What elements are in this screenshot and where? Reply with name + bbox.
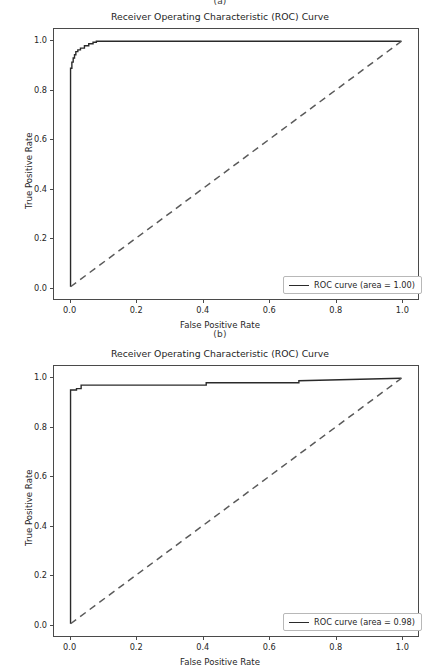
x-tick-label-b-5: 1.0 — [396, 642, 409, 652]
x-tick-a-0 — [70, 300, 71, 303]
x-tick-label-a-4: 0.8 — [329, 305, 342, 315]
y-tick-b-2 — [50, 526, 53, 527]
roc-plot-svg-a — [54, 29, 418, 299]
x-tick-a-3 — [269, 300, 270, 303]
y-tick-a-4 — [50, 90, 53, 91]
x-tick-label-a-5: 1.0 — [396, 305, 409, 315]
x-tick-label-a-0: 0.0 — [63, 305, 76, 315]
y-tick-label-b-5: 1.0 — [21, 372, 47, 382]
x-tick-label-b-4: 0.8 — [329, 642, 342, 652]
y-tick-label-a-1: 0.2 — [21, 233, 47, 243]
y-tick-b-1 — [50, 575, 53, 576]
y-tick-label-a-3: 0.6 — [21, 134, 47, 144]
roc-chart-panel-a: Receiver Operating Characteristic (ROC) … — [0, 0, 440, 340]
y-tick-label-b-1: 0.2 — [21, 570, 47, 580]
chart-title-a: Receiver Operating Characteristic (ROC) … — [0, 11, 440, 22]
plot-axes-b — [53, 365, 419, 637]
legend-line-swatch-b — [289, 622, 309, 623]
x-tick-a-5 — [402, 300, 403, 303]
x-tick-label-a-3: 0.6 — [263, 305, 276, 315]
y-tick-b-3 — [50, 476, 53, 477]
x-tick-label-a-2: 0.4 — [196, 305, 209, 315]
x-tick-b-3 — [269, 637, 270, 640]
chance-diagonal-line-b — [71, 378, 402, 623]
y-tick-label-b-0: 0.0 — [21, 620, 47, 630]
y-tick-label-a-0: 0.0 — [21, 283, 47, 293]
chance-diagonal-line-a — [71, 41, 402, 286]
plot-area-b — [54, 366, 418, 636]
x-tick-b-2 — [203, 637, 204, 640]
y-tick-label-a-2: 0.4 — [21, 184, 47, 194]
x-tick-b-0 — [70, 637, 71, 640]
x-tick-label-b-0: 0.0 — [63, 642, 76, 652]
y-tick-a-3 — [50, 139, 53, 140]
x-tick-label-b-1: 0.2 — [130, 642, 143, 652]
roc-plot-svg-b — [54, 366, 418, 636]
legend-a: ROC curve (area = 1.00) — [283, 276, 422, 294]
x-tick-b-1 — [136, 637, 137, 640]
y-tick-label-b-4: 0.8 — [21, 422, 47, 432]
x-tick-label-b-3: 0.6 — [263, 642, 276, 652]
x-tick-a-4 — [336, 300, 337, 303]
y-tick-label-a-5: 1.0 — [21, 35, 47, 45]
y-tick-a-0 — [50, 288, 53, 289]
x-tick-b-5 — [402, 637, 403, 640]
legend-label-b: ROC curve (area = 0.98) — [314, 617, 415, 627]
x-tick-a-1 — [136, 300, 137, 303]
chart-title-b: Receiver Operating Characteristic (ROC) … — [0, 348, 440, 359]
x-tick-b-4 — [336, 637, 337, 640]
x-tick-label-b-2: 0.4 — [196, 642, 209, 652]
y-tick-b-0 — [50, 625, 53, 626]
plot-axes-a — [53, 28, 419, 300]
y-tick-b-4 — [50, 427, 53, 428]
roc-chart-panel-b: Receiver Operating Characteristic (ROC) … — [0, 340, 440, 662]
x-tick-a-2 — [203, 300, 204, 303]
plot-area-a — [54, 29, 418, 299]
legend-b: ROC curve (area = 0.98) — [283, 613, 422, 631]
x-axis-label-b: False Positive Rate — [0, 657, 440, 667]
panel-caption-b: (b) — [0, 329, 440, 339]
y-tick-a-2 — [50, 189, 53, 190]
y-tick-a-1 — [50, 238, 53, 239]
x-tick-label-a-1: 0.2 — [130, 305, 143, 315]
y-tick-label-b-3: 0.6 — [21, 471, 47, 481]
y-tick-a-5 — [50, 40, 53, 41]
legend-label-a: ROC curve (area = 1.00) — [314, 280, 415, 290]
y-tick-b-5 — [50, 377, 53, 378]
legend-line-swatch-a — [289, 285, 309, 286]
y-tick-label-b-2: 0.4 — [21, 521, 47, 531]
y-tick-label-a-4: 0.8 — [21, 85, 47, 95]
